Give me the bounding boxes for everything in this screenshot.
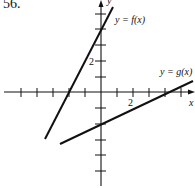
- line-f: [45, 7, 113, 139]
- graph: 2 2 y x y = f(x) y = g(x): [0, 0, 195, 188]
- line-g: [60, 81, 193, 144]
- y-axis-arrow-icon: [99, 0, 104, 7]
- label-g: y = g(x): [159, 66, 193, 78]
- x-tick-label-2: 2: [128, 97, 133, 108]
- y-tick-label-2: 2: [89, 56, 94, 67]
- x-axis-arrow-icon: [188, 90, 195, 95]
- y-axis-label: y: [106, 0, 112, 6]
- label-f: y = f(x): [114, 14, 146, 26]
- x-axis-label: x: [188, 97, 194, 108]
